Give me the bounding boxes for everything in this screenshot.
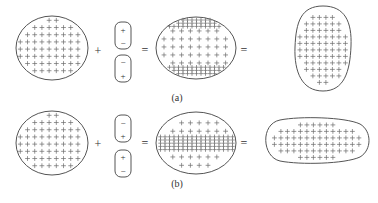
polarized-body-b — [156, 112, 236, 174]
charge-pattern — [18, 113, 80, 168]
figure: + + − − + = = (a) + — [0, 0, 378, 203]
neutral-body-b — [16, 111, 88, 175]
dipole-a-2: − + — [115, 55, 131, 82]
dipole-b-2: + − — [115, 150, 131, 177]
charge-pattern — [272, 123, 361, 160]
dipole-b-1: − + — [115, 115, 131, 142]
dipole-b-1-bottom-charge: + — [120, 131, 125, 141]
result-body-b — [266, 118, 369, 164]
charge-pattern — [298, 15, 348, 85]
charge-pattern — [18, 18, 80, 73]
dipole-b-2-top-charge: + — [120, 152, 125, 162]
dipole-a-2-bottom-charge: + — [120, 71, 125, 81]
dipole-a-1: + − — [115, 22, 131, 49]
dipole-b-2-bottom-charge: − — [120, 166, 125, 176]
equals-operator-b-2: = — [241, 136, 248, 150]
panel-a: + + − − + = = (a) — [16, 6, 351, 104]
charge-pattern — [162, 18, 228, 76]
equals-operator-b-1: = — [142, 136, 149, 150]
dipole-a-2-top-charge: − — [120, 57, 125, 67]
equals-operator-a-2: = — [241, 43, 248, 57]
dipole-b-1-top-charge: − — [120, 118, 125, 128]
panel-b: + − + + − = = (b) — [16, 111, 369, 190]
panel-label-b: (b) — [171, 178, 183, 190]
result-body-a — [295, 6, 351, 91]
charge-pattern — [158, 120, 234, 167]
plus-operator-a: + — [95, 44, 102, 58]
polarized-body-a — [156, 17, 236, 79]
equals-operator-a-1: = — [142, 43, 149, 57]
dipole-a-1-bottom-charge: − — [120, 38, 125, 48]
plus-operator-b: + — [95, 137, 102, 151]
dipole-a-1-top-charge: + — [120, 25, 125, 35]
panel-label-a: (a) — [171, 92, 182, 104]
neutral-body-a — [16, 16, 88, 80]
